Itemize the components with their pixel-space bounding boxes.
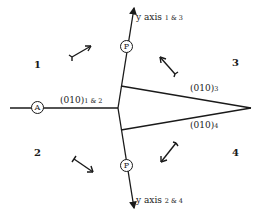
arrow-quadrant-1-icon: [69, 46, 91, 61]
composition-plane-4-line: [121, 108, 251, 130]
plane-4-sub: 4: [214, 122, 218, 130]
y-axis-1-3-text: y axis: [136, 12, 162, 22]
quadrant-2-label: 2: [34, 148, 41, 158]
plane-3-label: (010)3: [190, 84, 218, 93]
plane-3-sub: 3: [214, 85, 218, 93]
quadrant-4-label: 4: [232, 148, 239, 158]
y-axis-1-3-sub: 1 & 3: [165, 14, 183, 22]
plane-1-2-sub: 1 & 2: [84, 97, 102, 105]
plane-1-2-label: (010)1 & 2: [60, 96, 102, 105]
quadrant-1-label: 1: [34, 60, 41, 70]
arrow-quadrant-3-icon: [160, 57, 178, 77]
plane-3-index: (010): [190, 83, 214, 93]
y-axis-2-4-text: y axis: [136, 195, 162, 205]
y-axis-2-4-sub: 2 & 4: [165, 197, 183, 205]
marker-p-upper: P: [120, 40, 133, 53]
plane-4-label: (010)4: [190, 121, 218, 130]
y-axis-1-3-label: y axis 1 & 3: [136, 13, 183, 22]
y-axis-2-4-label: y axis 2 & 4: [136, 196, 183, 205]
composition-plane-3-line: [121, 86, 251, 108]
arrow-quadrant-2-icon: [72, 156, 93, 172]
crystal-twin-diagram: A P P 1 2 3 4 (010)1 & 2 (010)3 (010)4 y…: [0, 0, 260, 217]
y-axis-2-4-line: [118, 108, 134, 208]
arrow-quadrant-4-icon: [161, 142, 178, 162]
marker-p-lower: P: [120, 159, 133, 172]
marker-a: A: [31, 101, 44, 114]
plane-4-index: (010): [190, 120, 214, 130]
plane-1-2-index: (010): [60, 95, 84, 105]
quadrant-3-label: 3: [232, 58, 239, 68]
y-axis-1-3-line: [118, 8, 134, 108]
